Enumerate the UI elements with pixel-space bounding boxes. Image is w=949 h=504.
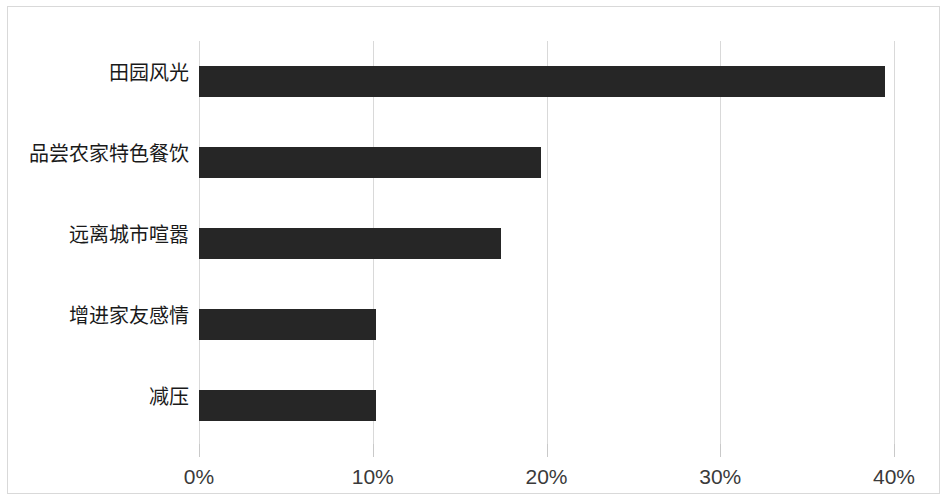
category-label-3: 增进家友感情: [69, 306, 189, 326]
bar-3: [199, 309, 376, 340]
tickmark-0pct: [199, 444, 200, 457]
tickmark-30pct: [720, 444, 721, 457]
chart-frame: 田园风光 品尝农家特色餐饮 远离城市喧嚣 增进家友感情 减压 0% 10% 20…: [7, 6, 940, 494]
category-label-0: 田园风光: [109, 63, 189, 83]
gridline-20pct: [547, 41, 548, 444]
bar-0: [199, 66, 885, 97]
tickmark-20pct: [547, 444, 548, 457]
tickmark-40pct: [894, 444, 895, 457]
plot-area: [199, 41, 894, 444]
category-label-1: 品尝农家特色餐饮: [29, 144, 189, 164]
xtick-label-1: 10%: [328, 465, 418, 489]
gridline-30pct: [720, 41, 721, 444]
category-label-2: 远离城市喧嚣: [69, 225, 189, 245]
bar-2: [199, 228, 501, 259]
tickmark-10pct: [373, 444, 374, 457]
xtick-label-2: 20%: [502, 465, 592, 489]
bar-1: [199, 147, 541, 178]
gridline-40pct: [894, 41, 895, 444]
xtick-label-3: 30%: [675, 465, 765, 489]
category-label-4: 减压: [149, 387, 189, 407]
bar-4: [199, 390, 376, 421]
xtick-label-0: 0%: [154, 465, 244, 489]
category-axis: 田园风光 品尝农家特色餐饮 远离城市喧嚣 增进家友感情 减压: [8, 41, 189, 444]
xtick-label-4: 40%: [849, 465, 939, 489]
